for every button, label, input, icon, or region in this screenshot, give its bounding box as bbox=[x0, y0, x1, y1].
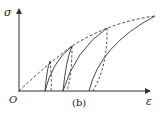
y-axis-label: σ bbox=[4, 6, 12, 19]
envelope-curve bbox=[19, 16, 155, 91]
loading-branch-5 bbox=[45, 46, 72, 91]
origin-label: O bbox=[9, 94, 17, 105]
figure-caption: (b) bbox=[72, 97, 86, 108]
loading-branch-3 bbox=[63, 28, 107, 91]
loading-branch-4 bbox=[89, 16, 155, 91]
stress-strain-diagram: σ ε O (b) bbox=[0, 0, 165, 113]
x-axis-label: ε bbox=[146, 95, 152, 108]
